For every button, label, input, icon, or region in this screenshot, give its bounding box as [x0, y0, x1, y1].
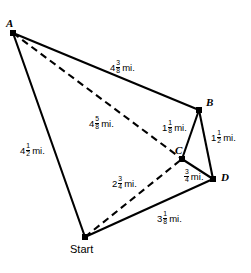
measure-fraction: 38	[116, 60, 121, 75]
measure-whole: 1	[162, 123, 167, 133]
measure-label-c-d: 34mi.	[184, 169, 204, 184]
vertex-label-c: C	[175, 145, 182, 156]
measure-unit: mi.	[124, 179, 137, 189]
measure-denominator: 8	[116, 67, 121, 75]
measure-label-b-c: 118mi.	[162, 120, 187, 135]
measure-whole: 1	[211, 133, 216, 143]
measure-unit: mi.	[174, 123, 187, 133]
measure-label-a-start: 412mi.	[20, 143, 45, 158]
measure-fraction: 58	[95, 116, 100, 131]
vertex-dot-start	[82, 234, 88, 240]
edge-a-c-dashed	[13, 33, 182, 159]
edge-d-start	[85, 179, 213, 237]
measure-whole: 2	[112, 179, 117, 189]
measure-denominator: 4	[184, 176, 189, 184]
measure-unit: mi.	[32, 146, 45, 156]
measure-denominator: 8	[95, 123, 100, 131]
measure-unit: mi.	[223, 133, 236, 143]
measure-fraction: 34	[118, 176, 123, 191]
measure-fraction: 12	[217, 130, 222, 145]
measure-label-a-c: 458mi.	[89, 116, 114, 131]
measure-label-a-b: 438mi.	[110, 60, 135, 75]
vertex-label-a: A	[6, 18, 13, 29]
measure-numerator: 3	[118, 176, 123, 183]
vertex-dot-d	[210, 176, 216, 182]
measure-numerator: 3	[116, 60, 121, 67]
measure-unit: mi.	[122, 63, 135, 73]
measure-fraction: 18	[168, 120, 173, 135]
measure-denominator: 2	[217, 137, 222, 145]
vertex-label-b: B	[206, 97, 213, 108]
measure-unit: mi.	[101, 119, 114, 129]
measure-unit: mi.	[191, 172, 204, 182]
measure-numerator: 1	[163, 211, 168, 218]
vertex-dot-c	[179, 156, 185, 162]
measure-numerator: 3	[184, 169, 189, 176]
measure-whole: 4	[110, 63, 115, 73]
measure-numerator: 1	[168, 120, 173, 127]
vertex-label-start: Start	[70, 244, 93, 255]
vertex-dot-a	[10, 30, 16, 36]
measure-fraction: 12	[26, 143, 31, 158]
measure-label-start-d: 318mi.	[157, 211, 182, 226]
measure-denominator: 2	[26, 150, 31, 158]
measure-numerator: 1	[217, 130, 222, 137]
measure-numerator: 5	[95, 116, 100, 123]
measure-numerator: 1	[26, 143, 31, 150]
measure-whole: 3	[157, 214, 162, 224]
measure-denominator: 8	[168, 127, 173, 135]
measure-fraction: 34	[184, 169, 189, 184]
edge-a-b	[13, 33, 199, 110]
measure-denominator: 8	[163, 218, 168, 226]
measure-unit: mi.	[169, 214, 182, 224]
vertex-label-d: D	[221, 172, 229, 183]
measure-whole: 4	[20, 146, 25, 156]
vertex-dot-b	[196, 107, 202, 113]
measure-label-b-d: 112mi.	[211, 130, 236, 145]
measure-label-start-c: 234mi.	[112, 176, 137, 191]
figure-root: A B C D Start 438mi. 458mi. 412mi. 118mi…	[0, 0, 251, 273]
measure-denominator: 4	[118, 183, 123, 191]
edge-start-a	[13, 33, 85, 237]
measure-whole: 4	[89, 119, 94, 129]
dashed-edges	[13, 33, 182, 237]
measure-fraction: 18	[163, 211, 168, 226]
